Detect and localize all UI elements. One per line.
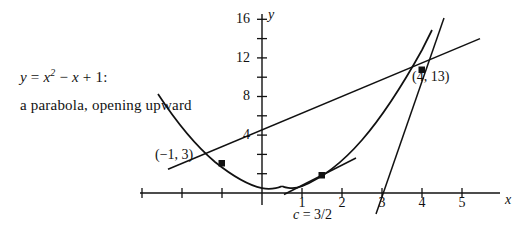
point-marker-minus1-3 bbox=[219, 160, 226, 167]
secant-line bbox=[168, 39, 480, 170]
figure-container: y = x2 − x + 1: a parabola, opening upwa… bbox=[0, 0, 529, 237]
point-label-4-13: (4, 13) bbox=[412, 70, 449, 84]
c-value-label: c = 3/2 bbox=[293, 208, 332, 222]
point-marker-c bbox=[319, 172, 326, 179]
y-axis-label: y bbox=[268, 8, 274, 22]
parabola-curve bbox=[158, 30, 432, 189]
x-tick-label-1: 1 bbox=[292, 196, 312, 210]
y-tick-label-8: 8 bbox=[224, 89, 250, 103]
x-tick-label-5: 5 bbox=[452, 196, 472, 210]
steep-line-through-point bbox=[376, 18, 444, 214]
caption-description: a parabola, opening upward bbox=[20, 98, 192, 113]
graph-canvas bbox=[0, 0, 529, 237]
x-axis-label: x bbox=[505, 193, 511, 207]
x-tick-label-4: 4 bbox=[412, 196, 432, 210]
x-tick-label-3: 3 bbox=[372, 196, 392, 210]
y-tick-label-12: 12 bbox=[224, 51, 250, 65]
y-tick-label-16: 16 bbox=[224, 12, 250, 26]
point-label-minus1-3: (−1, 3) bbox=[155, 148, 193, 162]
x-tick-label-2: 2 bbox=[332, 196, 352, 210]
y-tick-label-4: 4 bbox=[224, 128, 250, 142]
caption-equation: y = x2 − x + 1: bbox=[20, 68, 108, 85]
